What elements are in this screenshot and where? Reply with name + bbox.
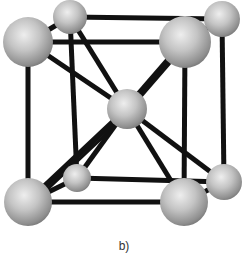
bond-back-bottom-left-back-bottom-right (77, 178, 224, 182)
atom-front-top-right (159, 16, 211, 68)
atom-center (107, 89, 147, 129)
atom-back-bottom-right (206, 164, 242, 200)
atom-front-bottom-right (160, 178, 208, 226)
atom-back-bottom-left (63, 164, 91, 192)
atom-back-top-right (204, 1, 240, 37)
bond-back-top-left-back-top-right (70, 17, 222, 19)
figure-caption: b) (0, 239, 248, 253)
atom-back-top-left (53, 0, 87, 34)
bcc-crystal-diagram (0, 0, 248, 256)
bond-back-top-right-back-bottom-right (222, 19, 224, 182)
atom-front-top-left (3, 17, 53, 67)
atom-front-bottom-left (4, 178, 52, 226)
